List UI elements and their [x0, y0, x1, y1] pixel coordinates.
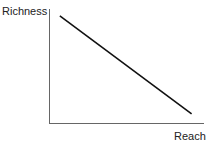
chart-plot	[0, 0, 211, 149]
trend-line	[60, 16, 192, 114]
